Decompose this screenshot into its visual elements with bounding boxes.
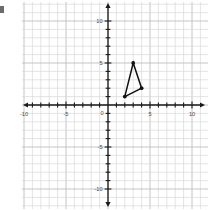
x-tick-label: 10 [189,111,195,117]
y-tick-label: 5 [99,60,102,66]
left-edge-artifact [0,6,4,13]
x-tick-label: -10 [20,111,28,117]
triangle-vertex-b [131,61,135,65]
y-tick-label: -5 [98,144,103,150]
origin-label: 0 [100,110,103,116]
y-tick-label: 10 [96,18,102,24]
triangle-vertex-c [140,86,144,90]
triangle-vertex-a [123,95,127,99]
y-tick-label: -10 [94,186,102,192]
coordinate-plane-screenshot: -10-5510105-5-100 [0,0,209,210]
x-tick-label: -5 [64,111,69,117]
coordinate-plane-figure: -10-5510105-5-100 [0,0,209,210]
axes [23,3,205,207]
x-tick-label: 5 [148,111,151,117]
